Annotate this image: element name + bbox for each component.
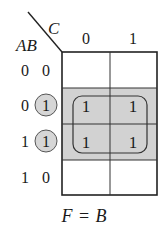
row-2-label-b: 1 [42, 133, 50, 150]
row-0-label-a: 0 [21, 62, 29, 79]
row-variables-label: AB [15, 36, 37, 55]
result-eq: = [79, 206, 89, 226]
result-lhs: F [60, 206, 73, 226]
row-1-label-a: 0 [21, 97, 29, 114]
row-2-label-a: 1 [21, 133, 29, 150]
result-equation: F = B [60, 206, 106, 226]
result-rhs: B [96, 206, 107, 226]
cell-r1-c1: 1 [129, 97, 138, 116]
col-header-0: 0 [82, 30, 90, 47]
cell-r2-c0: 1 [82, 133, 91, 152]
row-1-label-b: 1 [42, 97, 50, 114]
row-3-label-b: 0 [42, 169, 50, 186]
col-header-1: 1 [129, 30, 137, 47]
row-0-label-b: 0 [42, 62, 50, 79]
cell-r2-c1: 1 [129, 133, 138, 152]
col-variable-label: C [48, 19, 60, 38]
cell-r1-c0: 1 [82, 97, 91, 116]
karnaugh-map-diagram: C AB 0 1 0 0 1 1 0 1 1 0 1 1 1 1 F = B [0, 0, 167, 231]
row-3-label-a: 1 [21, 169, 29, 186]
